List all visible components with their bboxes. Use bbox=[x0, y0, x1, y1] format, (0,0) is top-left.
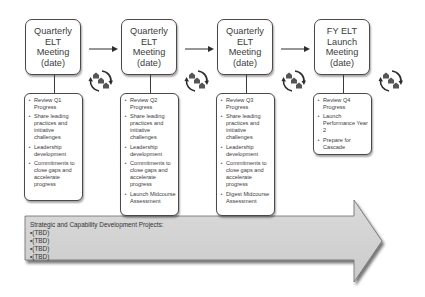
agenda-item: Review Q1 Progress bbox=[28, 97, 80, 111]
agenda-item: Leadership development bbox=[28, 144, 80, 158]
agenda-box-q2: Review Q2 Progress Share leading practic… bbox=[120, 93, 179, 216]
cycle-houses-icon bbox=[281, 68, 307, 94]
agenda-item: Launch Performance Year 2 bbox=[317, 113, 369, 134]
meeting-date: (date) bbox=[326, 58, 359, 69]
agenda-item: Commitments to close gaps and accelerate… bbox=[28, 160, 80, 188]
meeting-title-line: Launch bbox=[326, 37, 359, 48]
meeting-box-q1: Quarterly ELT Meeting (date) bbox=[25, 19, 81, 75]
meeting-title-line: Meeting bbox=[326, 47, 359, 58]
connector-line bbox=[54, 75, 55, 93]
cycle-houses-icon bbox=[184, 68, 210, 94]
agenda-item: Commitments to close gaps and accelerate… bbox=[220, 160, 272, 188]
agenda-box-q1: Review Q1 Progress Share leading practic… bbox=[24, 93, 83, 201]
agenda-item: Leadership development bbox=[220, 144, 272, 158]
project-item: (TBD) bbox=[30, 245, 164, 253]
meeting-date: (date) bbox=[28, 58, 78, 69]
meeting-title-line: ELT Meeting bbox=[28, 37, 78, 58]
connector-line bbox=[150, 75, 151, 93]
agenda-item: Launch Midcourse Assessment bbox=[124, 191, 176, 205]
flow-arrow bbox=[89, 45, 119, 53]
cycle-houses-icon bbox=[88, 68, 114, 94]
diagram-canvas: Strategic and Capability Development Pro… bbox=[0, 0, 425, 297]
meeting-box-q3: Quarterly ELT Meeting (date) bbox=[217, 19, 273, 75]
connector-line bbox=[343, 75, 344, 93]
agenda-item: Review Q4 Progress bbox=[317, 97, 369, 111]
project-item: (TBD) bbox=[30, 229, 164, 237]
agenda-item: Share leading practices and initiative c… bbox=[220, 113, 272, 141]
meeting-title-line: FY ELT bbox=[326, 26, 359, 37]
meeting-title-line: Quarterly bbox=[124, 26, 174, 37]
agenda-item: Review Q2 Progress bbox=[124, 97, 176, 111]
cycle-houses-icon bbox=[378, 68, 404, 94]
flow-arrow bbox=[185, 45, 215, 53]
agenda-item: Review Q3 Progress bbox=[220, 97, 272, 111]
agenda-item: Commitments to close gaps and accelerate… bbox=[124, 160, 176, 188]
agenda-item: Share leading practices and initiative c… bbox=[28, 113, 80, 141]
meeting-box-q2: Quarterly ELT Meeting (date) bbox=[121, 19, 177, 75]
agenda-item: Share leading practices and initiative c… bbox=[124, 113, 176, 141]
projects-list: Strategic and Capability Development Pro… bbox=[30, 221, 164, 261]
agenda-item: Leadership development bbox=[124, 144, 176, 158]
meeting-date: (date) bbox=[124, 58, 174, 69]
agenda-item: Prepare for Cascade bbox=[317, 137, 369, 151]
projects-heading: Strategic and Capability Development Pro… bbox=[30, 221, 164, 229]
meeting-title-line: Quarterly bbox=[28, 26, 78, 37]
meeting-title-line: Quarterly bbox=[220, 26, 270, 37]
project-item: (TBD) bbox=[30, 237, 164, 245]
agenda-box-q3: Review Q3 Progress Share leading practic… bbox=[216, 93, 275, 216]
meeting-date: (date) bbox=[220, 58, 270, 69]
meeting-box-fy-launch: FY ELT Launch Meeting (date) bbox=[314, 19, 370, 75]
meeting-title-line: ELT Meeting bbox=[124, 37, 174, 58]
agenda-box-fy-launch: Review Q4 Progress Launch Performance Ye… bbox=[313, 93, 372, 155]
agenda-item: Digest Midcourse Assessment bbox=[220, 191, 272, 205]
connector-line bbox=[246, 75, 247, 93]
meeting-title-line: ELT Meeting bbox=[220, 37, 270, 58]
flow-arrow bbox=[281, 45, 311, 53]
project-item: (TBD) bbox=[30, 253, 164, 261]
